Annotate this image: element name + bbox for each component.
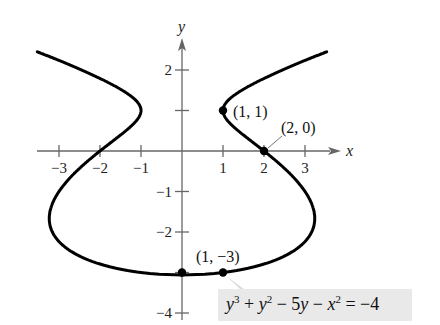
point-leader-2-0 <box>268 136 282 148</box>
x-tick-label: 1 <box>219 160 227 176</box>
equation-pointer <box>226 276 244 289</box>
point-label-2-0: (2, 0) <box>281 119 316 137</box>
y-tick-label: −2 <box>156 224 172 240</box>
y-tick-label: 2 <box>165 62 173 78</box>
data-point <box>260 147 268 155</box>
x-tick-label: −2 <box>92 160 108 176</box>
points: (1, 1)(2, 0)(1, −3) <box>178 103 316 289</box>
y-axis-label: y <box>176 18 186 36</box>
x-tick-label: −3 <box>51 160 67 176</box>
x-tick-label: 2 <box>260 160 268 176</box>
point-label-1-1: (1, 1) <box>233 103 268 121</box>
x-tick-label: 3 <box>301 160 309 176</box>
point-label-1-neg3: (1, −3) <box>196 248 240 266</box>
y-tick-label: −4 <box>156 305 172 321</box>
data-point <box>178 268 186 276</box>
data-point <box>219 268 227 276</box>
y-tick-label: −1 <box>156 184 172 200</box>
x-axis-label: x <box>345 142 353 159</box>
data-point <box>219 106 227 114</box>
graph: xy−3−2−11232−1−2−4 (1, 1)(2, 0)(1, −3) <box>0 0 440 325</box>
equation-label: y3 + y2 − 5y − x2 = −4 <box>226 294 379 315</box>
x-tick-label: −1 <box>133 160 149 176</box>
